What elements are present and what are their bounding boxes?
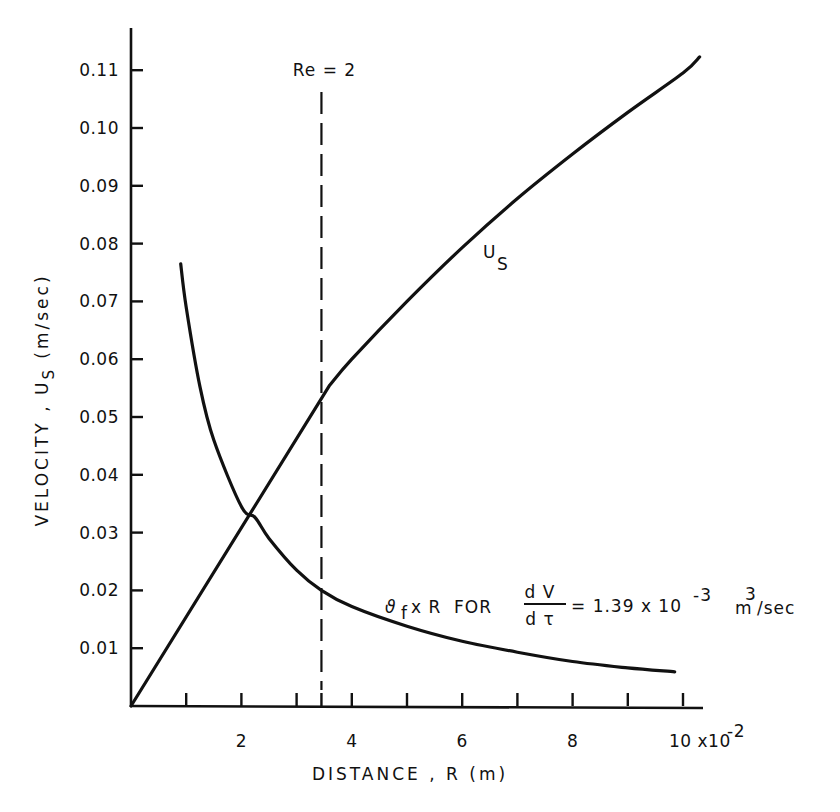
chart: 0.010.020.030.040.050.060.070.080.090.10… [0, 0, 840, 812]
x-tick-label: 10 x10 [669, 731, 731, 751]
exponent-value: -3 [693, 585, 712, 605]
y-tick-label: 0.10 [79, 118, 119, 138]
y-tick-label: 0.04 [79, 465, 119, 485]
x-tick-label: 4 [346, 731, 357, 751]
x-tick-label: 2 [236, 731, 247, 751]
y-ticks: 0.010.020.030.040.050.060.070.080.090.10… [79, 60, 143, 658]
x-ticks: 246810 x10-2 [186, 693, 745, 751]
y-tick-label: 0.03 [79, 523, 119, 543]
reynolds-label: Re = 2 [293, 60, 356, 80]
x-axis-title: DISTANCE , R (m) [312, 764, 508, 784]
y-tick-label: 0.09 [79, 176, 119, 196]
unit-per-sec: /sec [757, 598, 795, 618]
y-tick-label: 0.01 [79, 638, 119, 658]
fraction-denominator: d τ [525, 609, 554, 629]
y-axis-title-group: VELOCITY , US (m/sec) [32, 273, 58, 526]
y-tick-label: 0.11 [79, 60, 119, 80]
theta-symbol: ϑ [385, 597, 397, 617]
x-axis [130, 706, 703, 708]
flux-label-text: x R FOR [411, 597, 492, 617]
flux-curve-label: ϑ f x R FOR d V d τ = 1.39 x 10 -3 m 3 /… [385, 582, 795, 629]
equals-value: = 1.39 x 10 [571, 596, 682, 616]
y-tick-label: 0.06 [79, 349, 119, 369]
us-curve-label: U S [483, 242, 509, 274]
y-tick-label: 0.07 [79, 291, 119, 311]
unit-cubed: 3 [745, 584, 757, 604]
fraction-numerator: d V [525, 582, 556, 602]
x-tick-label: 6 [457, 731, 468, 751]
y-axis-title: VELOCITY , US (m/sec) [32, 273, 58, 526]
x-exponent: -2 [727, 721, 745, 741]
us-label-main: U [483, 242, 496, 262]
theta-subscript: f [401, 603, 408, 623]
y-tick-label: 0.08 [79, 234, 119, 254]
y-tick-label: 0.05 [79, 407, 119, 427]
y-tick-label: 0.02 [79, 580, 119, 600]
x-tick-label: 8 [567, 731, 578, 751]
us-label-sub: S [497, 254, 509, 274]
